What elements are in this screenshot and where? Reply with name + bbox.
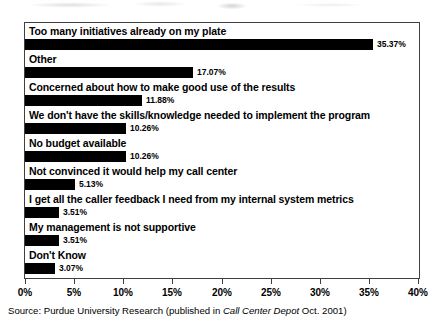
bar-rect [25,95,142,106]
bar-row: I get all the caller feedback I need fro… [25,192,419,220]
source-suffix: Oct. 2001) [299,305,346,316]
bar-category-label: Concerned about how to make good use of … [29,81,295,94]
bar-category-label: Too many initiatives already on my plate [29,25,226,38]
bar-value-label: 17.07% [197,67,226,78]
chart-plot-frame: Too many initiatives already on my plate… [24,22,420,279]
bar-category-label: Don't Know [29,249,86,262]
bar-row: Don't Know3.07% [25,248,419,276]
bar-rect [25,151,126,162]
bar-rect [25,39,373,50]
x-axis-tick-mark [271,279,272,284]
x-axis-tick-label: 10% [113,286,133,299]
x-axis-tick-mark [172,279,173,284]
bar-category-label: We don't have the skills/knowledge neede… [29,109,370,122]
bar-category-label: Not convinced it would help my call cent… [29,165,237,178]
bar-value-label: 3.51% [63,207,87,218]
x-axis-tick-mark [418,279,419,284]
x-axis-tick-label: 30% [310,286,330,299]
x-axis-tick-label: 25% [261,286,281,299]
x-axis-tick-label: 40% [408,286,428,299]
x-axis-tick-label: 0% [18,286,32,299]
x-axis-tick-mark [222,279,223,284]
x-axis-tick-mark [25,279,26,284]
bar-rect [25,207,59,218]
x-axis-tick-mark [320,279,321,284]
x-axis-tick-mark [369,279,370,284]
x-axis-tick-mark [123,279,124,284]
scan-noise-band [0,0,444,20]
bar-value-label: 10.26% [130,123,159,134]
x-axis-tick-label: 35% [359,286,379,299]
bar-row: Other17.07% [25,52,419,80]
bar-chart-plot-area: Too many initiatives already on my plate… [25,23,419,278]
bar-row: Too many initiatives already on my plate… [25,24,419,52]
x-axis-tick-label: 5% [67,286,81,299]
bar-value-label: 5.13% [79,179,103,190]
bar-row: No budget available10.26% [25,136,419,164]
x-axis-tick-marks [24,279,420,285]
source-publication: Call Center Depot [223,305,299,316]
bar-row: Not convinced it would help my call cent… [25,164,419,192]
bar-category-label: My management is not supportive [29,221,196,234]
bar-value-label: 11.88% [146,95,174,106]
bar-rect [25,123,126,134]
bar-rect [25,263,55,274]
x-axis-tick-labels: 0%5%10%15%20%25%30%35%40% [24,286,420,300]
bar-rect [25,179,75,190]
bar-value-label: 3.07% [59,263,83,274]
x-axis-tick-label: 20% [212,286,232,299]
bar-row: We don't have the skills/knowledge neede… [25,108,419,136]
bar-rect [25,235,59,246]
bar-category-label: I get all the caller feedback I need fro… [29,193,354,206]
source-note: Source: Purdue University Research (publ… [8,304,347,317]
bar-category-label: Other [29,53,57,66]
bar-value-label: 10.26% [130,151,159,162]
bar-category-label: No budget available [29,137,126,150]
bar-rect [25,67,193,78]
bar-value-label: 3.51% [63,235,87,246]
source-prefix: Source: Purdue University Research (publ… [8,305,223,316]
bar-value-label: 35.37% [377,39,406,50]
x-axis-tick-label: 15% [162,286,182,299]
x-axis-tick-mark [74,279,75,284]
bar-row: Concerned about how to make good use of … [25,80,419,108]
bar-row: My management is not supportive3.51% [25,220,419,248]
